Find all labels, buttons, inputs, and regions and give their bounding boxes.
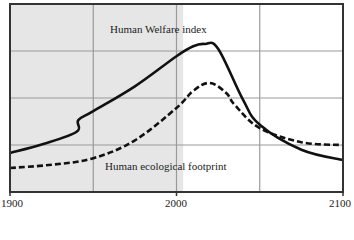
x-tick-2000: 2000 — [165, 197, 187, 209]
welfare-annotation: Human Welfare index — [110, 23, 207, 35]
x-tick-1900: 1900 — [1, 197, 23, 209]
footprint-annotation: Human ecological footprint — [105, 160, 227, 172]
x-tick-2100: 2100 — [329, 197, 351, 209]
